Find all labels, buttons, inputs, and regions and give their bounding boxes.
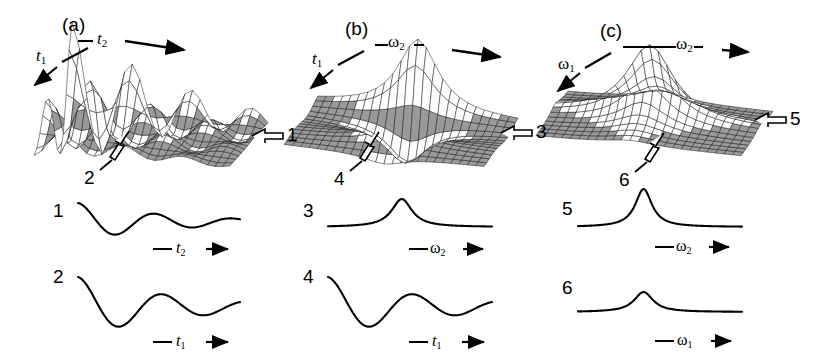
callout-number-3: 3	[536, 121, 547, 143]
callout-number-4: 4	[334, 168, 345, 190]
panel-label-c: (c)	[600, 20, 622, 42]
axis-label-t2-panel-a: t2	[97, 29, 107, 49]
trace-axis-6-base: ω	[677, 331, 688, 348]
trace-axis-5-sub: 2	[687, 245, 692, 256]
panel-label-a: (a)	[62, 14, 85, 36]
axis-label-omega2-panel-c: ω2	[676, 34, 693, 54]
axis-label-w2c-sub: 2	[687, 42, 693, 54]
callout-number-6: 6	[619, 169, 630, 191]
axis-label-t1-panel-b: t1	[312, 49, 322, 69]
trace-axis-arrows	[153, 247, 731, 342]
trace-number-5: 5	[562, 198, 573, 220]
callout-number-2: 2	[84, 167, 95, 189]
axis-label-t1-sub: 1	[41, 54, 47, 66]
trace-curve-2	[78, 277, 240, 327]
trace-axis-3-base: ω	[430, 239, 441, 256]
axis-label-w2c-base: ω	[676, 34, 687, 53]
figure-canvas: (a) (b) (c) t1 t2 1 2 t1 ω2 3 4 ω1 ω2 5 …	[0, 0, 829, 361]
trace-axis-6-sub: 1	[688, 339, 693, 350]
axis-label-w1c-sub: 1	[569, 62, 575, 74]
trace-axis-label-6: ω1	[677, 331, 693, 350]
trace-curve-3	[328, 199, 492, 226]
trace-axis-label-5: ω2	[676, 237, 692, 256]
trace-axis-4-sub: 1	[436, 340, 441, 351]
callout-number-1: 1	[287, 124, 298, 146]
trace-axis-label-1: t2	[176, 239, 185, 258]
callout-number-5: 5	[790, 108, 801, 130]
trace-axis-label-2: t1	[176, 332, 185, 351]
trace-axis-5-base: ω	[676, 237, 687, 254]
axis-label-t1-panel-a: t1	[36, 46, 46, 66]
trace-number-6: 6	[562, 277, 573, 299]
figure-vector-layer	[0, 0, 829, 361]
trace-curve-1	[78, 203, 240, 235]
trace-curve-4	[328, 277, 492, 327]
trace-axis-3-sub: 2	[441, 247, 446, 258]
trace-axis-1-sub: 2	[180, 247, 185, 258]
trace-curve-5	[578, 189, 742, 227]
axis-label-w1c-base: ω	[558, 54, 569, 73]
trace-axis-label-3: ω2	[430, 239, 446, 258]
trace-number-3: 3	[303, 200, 314, 222]
panel-label-b: (b)	[345, 18, 368, 40]
axis-label-w2b-sub: 2	[399, 40, 405, 52]
trace-number-1: 1	[53, 200, 64, 222]
trace-axis-label-4: t1	[432, 332, 441, 351]
axis-label-omega1-panel-c: ω1	[558, 54, 575, 74]
axis-label-t1b-sub: 1	[317, 57, 323, 69]
panel-a-surface	[34, 22, 268, 166]
trace-curve-6	[578, 292, 742, 312]
trace-number-4: 4	[303, 266, 314, 288]
trace-axis-2-sub: 1	[180, 340, 185, 351]
trace-number-2: 2	[53, 266, 64, 288]
axis-label-w2b-base: ω	[388, 32, 399, 51]
axis-label-t2-sub: 2	[102, 37, 108, 49]
axis-label-omega2-panel-b: ω2	[388, 32, 405, 52]
